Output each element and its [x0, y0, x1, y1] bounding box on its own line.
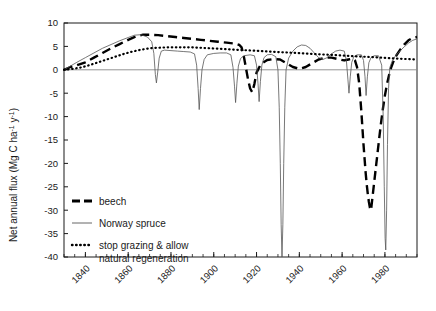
- y-tick-label: -15: [44, 134, 58, 145]
- y-tick-label: -35: [44, 228, 58, 239]
- y-tick-label: -30: [44, 205, 58, 216]
- y-tick-label: -5: [50, 88, 58, 99]
- y-tick-label: -10: [44, 111, 58, 122]
- y-tick-label: 0: [53, 64, 58, 75]
- legend-label-beech: beech: [99, 196, 126, 207]
- y-tick-label: 10: [47, 17, 58, 28]
- legend-label-stop-grazing-allow: stop grazing & allow: [99, 240, 189, 251]
- y-tick-label: -20: [44, 158, 58, 169]
- net-annual-flux-chart: Net annual flux (Mg C ha-1 y-1) 1050-5-1…: [0, 0, 436, 311]
- y-tick-label: -40: [44, 251, 58, 262]
- y-tick-label: -25: [44, 181, 58, 192]
- y-axis-title-mid: y: [8, 117, 19, 125]
- y-axis-title-end: ): [8, 108, 19, 111]
- legend-label-stop-grazing-allow-line2: natural regeneration: [99, 253, 189, 264]
- y-axis-title-main: Net annual flux (Mg C ha: [8, 131, 19, 242]
- chart-figure: Net annual flux (Mg C ha-1 y-1) 1050-5-1…: [0, 0, 436, 311]
- legend-label-norway-spruce: Norway spruce: [99, 218, 166, 229]
- y-tick-label: 5: [53, 41, 58, 52]
